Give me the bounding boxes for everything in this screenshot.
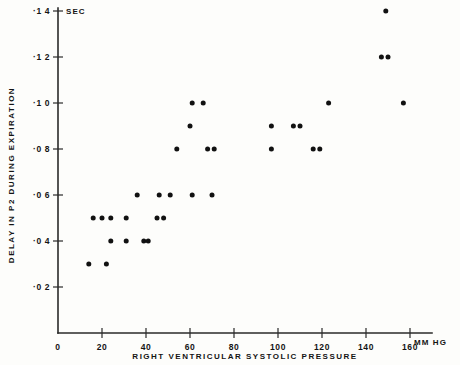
data-point <box>201 101 206 106</box>
data-point <box>298 124 303 129</box>
data-point <box>379 55 384 60</box>
x-tick-label: 100 <box>270 342 286 352</box>
data-point <box>326 101 331 106</box>
data-point <box>401 101 406 106</box>
data-point <box>269 124 274 129</box>
y-tick-label: ·1 0 <box>33 98 50 108</box>
x-axis-title: RIGHT VENTRICULAR SYSTOLIC PRESSURE <box>132 352 357 361</box>
data-point <box>291 124 296 129</box>
y-axis-title: DELAY IN P2 DURING EXPIRATION <box>7 87 16 263</box>
data-point <box>108 239 113 244</box>
x-tick-label: 20 <box>97 342 108 352</box>
x-axis-unit-label: MM HG <box>414 338 447 347</box>
data-point <box>135 193 140 198</box>
data-points-group <box>86 9 406 267</box>
data-point <box>188 124 193 129</box>
data-point <box>157 193 162 198</box>
data-point <box>383 9 388 14</box>
data-point <box>205 147 210 152</box>
data-point <box>146 239 151 244</box>
data-point <box>168 193 173 198</box>
data-point <box>269 147 274 152</box>
y-tick-label: ·1 2 <box>33 52 50 62</box>
data-point <box>104 262 109 267</box>
data-point <box>386 55 391 60</box>
data-point <box>311 147 316 152</box>
data-point <box>124 239 129 244</box>
data-point <box>161 216 166 221</box>
data-point <box>141 239 146 244</box>
x-axis-ticks: 020406080100120140160 <box>55 328 418 352</box>
y-tick-label: ·0 2 <box>33 282 50 292</box>
data-point <box>91 216 96 221</box>
axes-group <box>58 8 432 333</box>
scatter-plot-figure: ·0 2·0 4·0 6·0 8·1 0·1 2·1 4 02040608010… <box>0 0 460 365</box>
data-point <box>212 147 217 152</box>
y-tick-label: ·0 6 <box>33 190 50 200</box>
data-point <box>190 193 195 198</box>
x-tick-label: 60 <box>185 342 196 352</box>
x-tick-label: 80 <box>229 342 240 352</box>
y-tick-label: ·1 4 <box>33 6 50 16</box>
data-point <box>210 193 215 198</box>
data-point <box>124 216 129 221</box>
data-point <box>108 216 113 221</box>
plot-canvas: ·0 2·0 4·0 6·0 8·1 0·1 2·1 4 02040608010… <box>0 0 460 365</box>
y-tick-label: ·0 8 <box>33 144 50 154</box>
data-point <box>86 262 91 267</box>
data-point <box>317 147 322 152</box>
y-axis-unit-label: SEC <box>66 7 86 16</box>
x-tick-label: 140 <box>358 342 374 352</box>
x-tick-label: 0 <box>55 342 60 352</box>
x-tick-label: 120 <box>314 342 330 352</box>
data-point <box>155 216 160 221</box>
data-point <box>190 101 195 106</box>
y-tick-label: ·0 4 <box>33 236 50 246</box>
x-tick-label: 40 <box>141 342 152 352</box>
data-point <box>174 147 179 152</box>
data-point <box>100 216 105 221</box>
